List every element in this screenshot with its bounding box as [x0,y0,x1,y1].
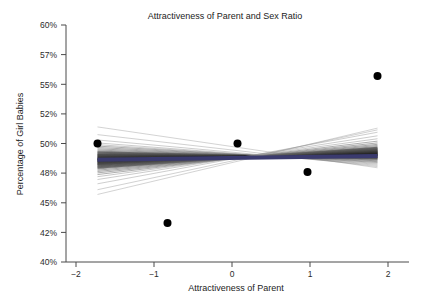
x-axis-title: Attractiveness of Parent [188,283,284,293]
x-tick-label: 2 [386,269,391,279]
chart-title: Attractiveness of Parent and Sex Ratio [148,11,303,21]
y-tick-label: 45% [40,198,57,208]
y-axis-title: Percentage of Girl Babies [15,92,25,195]
y-tick-label: 57% [40,50,57,60]
chart-figure: Attractiveness of Parent and Sex Ratio P… [0,0,422,301]
x-tick-label: 0 [230,269,235,279]
data-point [234,140,242,148]
y-tick-label: 48% [40,168,57,178]
data-point [164,219,172,227]
y-tick-label: 42% [40,228,57,238]
data-point [304,168,312,176]
x-tick-label: −1 [149,269,159,279]
y-tick-label: 52% [40,109,57,119]
scatter-plot-svg: Attractiveness of Parent and Sex Ratio P… [0,0,422,301]
data-point [94,140,102,148]
data-point [374,72,382,80]
y-tick-label: 40% [40,257,57,267]
x-tick-label: −2 [71,269,81,279]
x-tick-label: 1 [308,269,313,279]
y-tick-label: 55% [40,80,57,90]
y-tick-label: 50% [40,139,57,149]
y-tick-label: 60% [40,20,57,30]
